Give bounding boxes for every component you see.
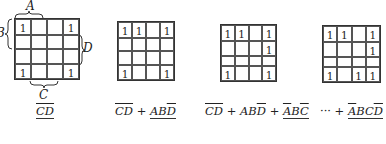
karnaugh-map-3: 1 1 1 1 1 1 <box>220 24 277 82</box>
label-C: C <box>39 88 48 102</box>
cell: 1 <box>221 25 235 41</box>
cell <box>118 38 132 52</box>
cell: 1 <box>366 67 380 83</box>
formula-2: CD + ABD <box>115 104 176 118</box>
term-not-c: C <box>300 104 309 118</box>
cell <box>63 35 79 50</box>
karnaugh-map-2: 1 1 1 1 1 <box>117 21 175 81</box>
ellipsis-plus: ··· + <box>320 104 348 118</box>
term-not-d: D <box>257 104 266 118</box>
cell <box>47 35 63 50</box>
cell: 1 <box>160 65 174 81</box>
cell <box>47 64 63 80</box>
brace-C <box>29 80 59 88</box>
cell: 1 <box>262 41 276 57</box>
cell: 1 <box>221 66 235 82</box>
cell: 1 <box>63 64 79 80</box>
cell <box>15 49 31 64</box>
cell: 1 <box>323 26 337 42</box>
cell <box>221 41 235 57</box>
cell <box>337 42 351 58</box>
cell: 1 <box>366 26 380 42</box>
term-not-a: A <box>283 104 291 118</box>
cell <box>337 57 351 67</box>
term-b: B <box>291 104 300 118</box>
cell: 1 <box>352 67 366 83</box>
cell <box>235 66 249 82</box>
cell <box>221 56 235 66</box>
cell: 1 <box>118 65 132 81</box>
cell: 1 <box>337 26 351 42</box>
cell: 1 <box>262 66 276 82</box>
cell: 1 <box>15 64 31 80</box>
cell <box>249 66 263 82</box>
cell <box>249 56 263 66</box>
cell <box>118 51 132 65</box>
term-not-d: D <box>167 104 176 118</box>
cell <box>146 65 160 81</box>
cell <box>132 51 146 65</box>
karnaugh-map-4: 1 1 1 1 1 1 1 <box>322 25 381 83</box>
cell <box>31 35 47 50</box>
term-not-c-not-d: CD <box>205 104 223 118</box>
cell: 1 <box>160 22 174 38</box>
cell: 1 <box>366 42 380 58</box>
cell: 1 <box>132 22 146 38</box>
formula-1: CD <box>36 104 54 118</box>
cell <box>160 51 174 65</box>
cell <box>337 67 351 83</box>
term-bc: BC <box>356 104 373 118</box>
cell <box>15 35 31 50</box>
cell <box>366 57 380 67</box>
cell: 1 <box>15 19 31 35</box>
cell <box>235 56 249 66</box>
plus: + <box>266 104 283 118</box>
karnaugh-map-1: 1 1 1 1 <box>14 18 80 80</box>
cell: 1 <box>323 67 337 83</box>
cell <box>262 56 276 66</box>
cell <box>31 64 47 80</box>
cell <box>31 49 47 64</box>
cell <box>352 42 366 58</box>
cell <box>352 26 366 42</box>
cell <box>146 51 160 65</box>
term-not-c-not-d: CD <box>115 104 133 118</box>
cell <box>146 38 160 52</box>
cell <box>235 41 249 57</box>
cell <box>352 57 366 67</box>
cell <box>249 25 263 41</box>
term-not-d: D <box>374 104 383 118</box>
cell <box>132 65 146 81</box>
term-ab: AB <box>240 104 257 118</box>
cell <box>132 38 146 52</box>
cell: 1 <box>235 25 249 41</box>
cell <box>31 19 47 35</box>
cell <box>63 49 79 64</box>
term-not-a: A <box>348 104 356 118</box>
cell: 1 <box>63 19 79 35</box>
cell <box>323 42 337 58</box>
cell <box>47 49 63 64</box>
cell <box>323 57 337 67</box>
plus: + <box>133 104 150 118</box>
cell <box>146 22 160 38</box>
term-ab: AB <box>150 104 167 118</box>
plus: + <box>223 104 240 118</box>
cell <box>249 41 263 57</box>
formula-4: ··· + ABCD <box>320 104 383 118</box>
formula-3: CD + ABD + ABC <box>205 104 309 118</box>
cell <box>47 19 63 35</box>
cell: 1 <box>118 22 132 38</box>
term-not-c-not-d: CD <box>36 104 54 118</box>
cell <box>160 38 174 52</box>
cell: 1 <box>262 25 276 41</box>
brace-B <box>5 18 13 50</box>
